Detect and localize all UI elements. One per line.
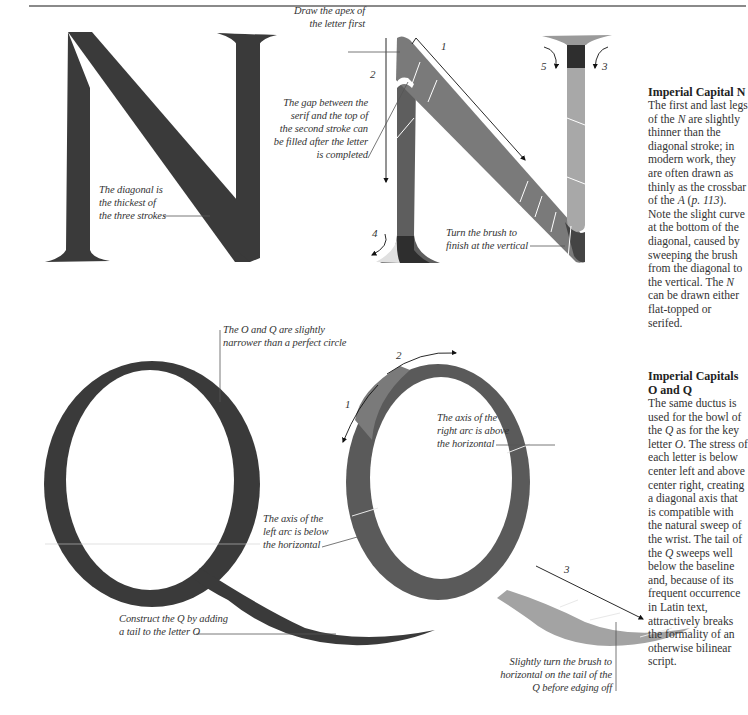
stroke-number-1: 1 — [441, 40, 447, 52]
sidebar-imperial-capital-n: Imperial Capital N The first and last le… — [648, 85, 748, 330]
caption-line: right arc is above — [437, 424, 509, 437]
heading-imperial-capital-n: Imperial Capital N — [648, 85, 748, 99]
caption-line: the three strokes — [99, 209, 166, 222]
caption-line: a tail to the letter O — [119, 625, 228, 638]
caption-line: The axis of the — [263, 512, 328, 525]
caption-line: left arc is below — [263, 525, 328, 538]
stroke-number-4: 4 — [372, 227, 378, 239]
caption-line: Draw the apex of — [285, 4, 365, 17]
caption-gap-filled: The gap between the serif and the top of… — [255, 96, 368, 161]
caption-draw-apex: Draw the apex of the letter first — [285, 4, 365, 30]
caption-line: Turn the brush to — [446, 226, 528, 239]
caption-line: The gap between the — [255, 96, 368, 109]
caption-line: The axis of the — [437, 411, 509, 424]
stroke-number-2: 2 — [370, 68, 376, 80]
caption-line: the horizontal — [437, 437, 509, 450]
caption-line: be filled after the letter — [255, 135, 368, 148]
caption-turn-brush: Turn the brush to finish at the vertical — [446, 226, 528, 252]
caption-line: Construct the Q by adding — [119, 612, 228, 625]
caption-line: the horizontal — [263, 538, 328, 551]
caption-line: The diagonal is — [99, 183, 166, 196]
caption-right-arc-axis: The axis of the right arc is above the h… — [437, 411, 509, 450]
caption-line: serif and the top of — [255, 109, 368, 122]
caption-line: the letter first — [285, 17, 365, 30]
letter-n-solid — [45, 32, 277, 262]
caption-line: Q before edging off — [480, 681, 612, 694]
heading-imperial-capitals-oq: Imperial CapitalsO and Q — [648, 369, 748, 397]
sidebar-imperial-capitals-oq: Imperial CapitalsO and Q The same ductus… — [648, 369, 748, 669]
caption-construct-q: Construct the Q by adding a tail to the … — [119, 612, 228, 638]
caption-narrower-than-circle: The O and Q are slightly narrower than a… — [223, 323, 346, 349]
caption-line: The O and Q are slightly — [223, 323, 346, 336]
caption-diagonal-thickest: The diagonal is the thickest of the thre… — [99, 183, 166, 222]
body-imperial-capital-n: The first and last legs of the N are sli… — [648, 99, 748, 330]
caption-line: narrower than a perfect circle — [223, 336, 346, 349]
caption-line: Slightly turn the brush to — [480, 655, 612, 668]
letter-q-construction — [346, 364, 690, 646]
caption-line: is completed — [255, 148, 368, 161]
body-imperial-capitals-oq: The same ductus is used for the bowl of … — [648, 397, 748, 669]
caption-slightly-turn-brush: Slightly turn the brush to horizontal on… — [480, 655, 612, 694]
caption-line: the thickest of — [99, 196, 166, 209]
stroke-number-5: 5 — [541, 60, 547, 72]
stroke-number-3: 3 — [602, 60, 608, 72]
caption-left-arc-axis: The axis of the left arc is below the ho… — [263, 512, 328, 551]
q-stroke-number-1: 1 — [345, 398, 351, 410]
caption-line: horizontal on the tail of the — [480, 668, 612, 681]
q-stroke-number-2: 2 — [396, 349, 402, 361]
caption-line: the second stroke can — [255, 122, 368, 135]
q-stroke-number-3: 3 — [564, 563, 570, 575]
caption-line: finish at the vertical — [446, 239, 528, 252]
